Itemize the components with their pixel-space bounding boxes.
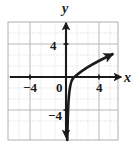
tick-label-origin: 0 — [56, 81, 63, 94]
tick-label-x-positive-4: 4 — [96, 81, 103, 94]
tick-label-y-negative-4: −4 — [48, 109, 62, 122]
y-axis-label: y — [62, 2, 68, 16]
tick-label-y-positive-4: 4 — [50, 39, 57, 52]
graph-figure: −4 0 4 4 −4 y x — [0, 0, 135, 143]
tick-label-x-negative-4: −4 — [23, 81, 37, 94]
x-axis-label: x — [124, 71, 131, 85]
graph-canvas — [0, 0, 135, 143]
